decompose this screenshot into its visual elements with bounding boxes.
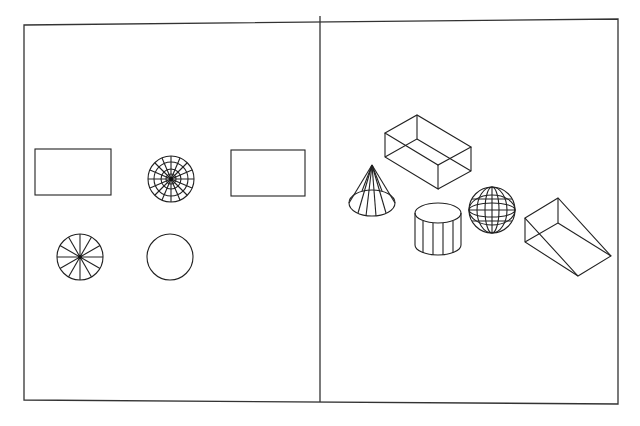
cone-solid-icon <box>349 165 395 216</box>
left-panel <box>35 149 305 280</box>
wedge-solid-icon <box>525 198 611 276</box>
figure-frame <box>24 16 618 404</box>
right-panel <box>349 115 611 276</box>
rectangle-front-view <box>35 149 111 195</box>
circle-view <box>147 234 193 280</box>
sphere-solid-icon <box>469 187 515 233</box>
rectangle-side-view <box>231 150 305 196</box>
box-solid-icon <box>385 115 471 189</box>
cylinder-solid-icon <box>415 203 461 255</box>
sphere-top-view-icon <box>148 156 194 202</box>
figure-canvas <box>0 0 640 426</box>
cone-top-view-icon <box>57 234 103 280</box>
